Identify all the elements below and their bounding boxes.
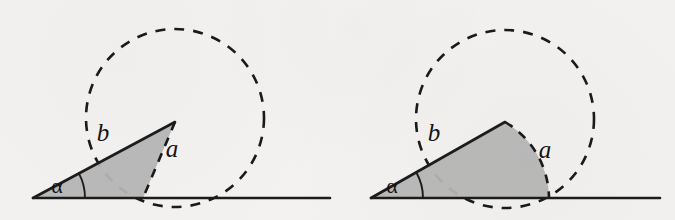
right-label-a: a bbox=[539, 136, 552, 163]
left-label-a: a bbox=[166, 135, 179, 162]
right-panel-group: b a α bbox=[371, 30, 660, 208]
left-label-alpha: α bbox=[51, 173, 63, 198]
left-panel-group: b a α bbox=[33, 29, 330, 207]
right-label-b: b bbox=[428, 119, 441, 146]
right-label-alpha: α bbox=[386, 173, 398, 198]
geometry-diagram-svg: b a α b a α bbox=[0, 0, 675, 220]
geometry-figure-canvas: b a α b a α bbox=[0, 0, 675, 220]
left-label-b: b bbox=[97, 119, 110, 146]
